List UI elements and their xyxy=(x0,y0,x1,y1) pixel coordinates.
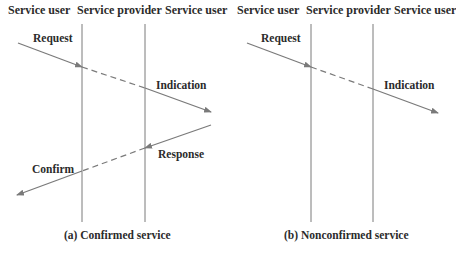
label-indication-b: Indication xyxy=(384,80,435,92)
provider-transit-dashed-a2 xyxy=(82,148,145,171)
header-service-user-right-a: Service user xyxy=(165,4,227,16)
header-service-user-left-a: Service user xyxy=(8,4,70,16)
indication-arrow-b xyxy=(373,89,438,113)
response-arrow-a xyxy=(145,125,211,148)
provider-transit-dashed-a1 xyxy=(82,67,145,88)
provider-transit-dashed-b xyxy=(311,67,373,89)
header-service-provider-a: Service provider xyxy=(77,4,162,16)
caption-b: (b) Nonconfirmed service xyxy=(284,230,409,242)
request-arrow-a xyxy=(18,43,82,67)
indication-arrow-a xyxy=(145,88,211,112)
label-response-a: Response xyxy=(158,149,204,161)
label-request-a: Request xyxy=(33,33,73,45)
header-service-provider-b: Service provider xyxy=(306,4,391,16)
label-request-b: Request xyxy=(261,33,301,45)
caption-a: (a) Confirmed service xyxy=(64,230,171,242)
label-confirm-a: Confirm xyxy=(32,164,74,176)
header-service-user-right-b: Service user xyxy=(394,4,456,16)
request-arrow-b xyxy=(247,43,311,67)
header-service-user-left-b: Service user xyxy=(237,4,299,16)
label-indication-a: Indication xyxy=(156,80,207,92)
